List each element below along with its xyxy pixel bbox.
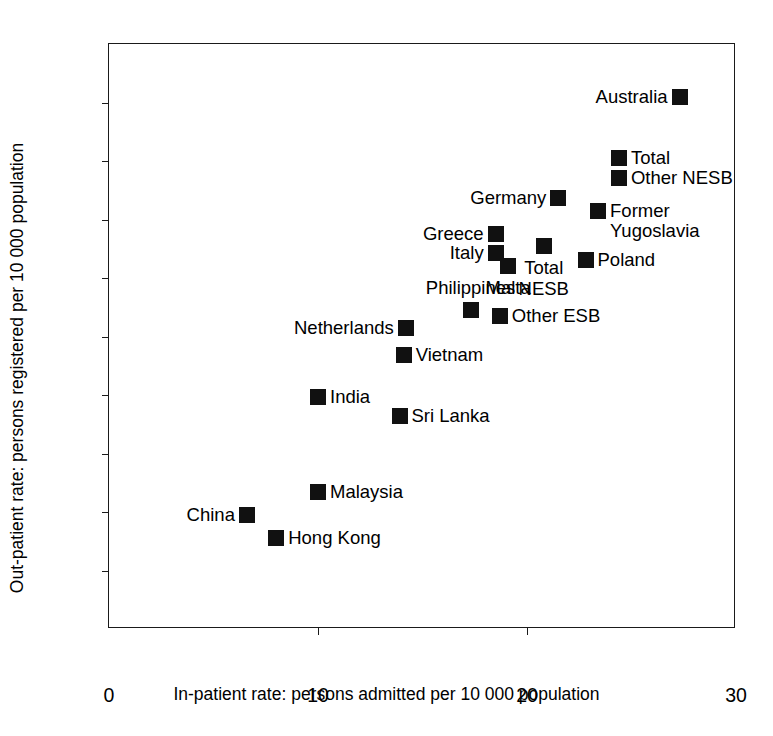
data-point-marker[interactable] [611,170,627,186]
data-point-label: Total [631,148,670,169]
data-point-label: China [187,505,235,526]
y-tick-mark [102,512,109,513]
data-point-marker[interactable] [536,238,552,254]
data-point-marker[interactable] [488,226,504,242]
data-point-marker[interactable] [550,190,566,206]
data-point-label: Philippines [426,278,515,299]
data-point-marker[interactable] [310,389,326,405]
y-tick-mark [102,220,109,221]
data-point-label: Sri Lanka [412,406,490,427]
data-point-label: Vietnam [416,345,484,366]
data-point-marker[interactable] [590,203,606,219]
data-point-marker[interactable] [268,530,284,546]
scatter-chart-figure: Out-patient rate: persons registered per… [0,0,773,736]
data-point-marker[interactable] [310,484,326,500]
data-point-marker[interactable] [672,89,688,105]
data-point-marker[interactable] [396,347,412,363]
y-tick-mark [102,278,109,279]
y-tick-mark [102,395,109,396]
data-point-marker[interactable] [492,308,508,324]
data-point-label: Malaysia [330,482,403,503]
y-tick-mark [102,571,109,572]
data-point-marker[interactable] [239,507,255,523]
y-tick-mark [102,161,109,162]
y-tick-mark [102,454,109,455]
data-point-label: Netherlands [294,318,394,339]
data-point-marker[interactable] [500,258,516,274]
data-point-label: Hong Kong [288,528,381,549]
data-point-marker[interactable] [611,150,627,166]
plot-area: 0102030405060708090100 0102030 Australia… [108,43,735,628]
data-point-label: Italy [450,243,484,264]
x-tick-mark [527,627,528,635]
data-point-label: Former Yugoslavia [610,201,699,242]
y-tick-mark [102,103,109,104]
data-point-marker[interactable] [398,320,414,336]
data-point-marker[interactable] [463,302,479,318]
data-point-label: Australia [596,87,668,108]
x-tick-mark [318,627,319,635]
data-point-label: Other ESB [512,306,600,327]
data-point-marker[interactable] [392,408,408,424]
data-point-label: Other NESB [631,168,733,189]
data-point-marker[interactable] [578,252,594,268]
data-point-label: Germany [470,188,546,209]
data-point-label: Total NESB [519,258,569,299]
data-point-label: Poland [598,250,656,271]
y-tick-mark [102,337,109,338]
data-point-label: India [330,387,370,408]
y-axis-title: Out-patient rate: persons registered per… [0,0,34,736]
x-axis-title: In-patient rate: persons admitted per 10… [0,684,773,705]
